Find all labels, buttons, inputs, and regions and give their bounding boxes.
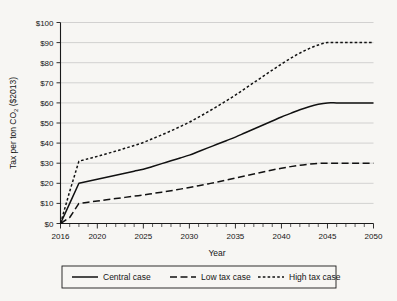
- y-tick-label-70: $70: [40, 79, 54, 88]
- y-tick-label-50: $50: [40, 119, 54, 128]
- y-axis-title-suffix: ($2013): [8, 77, 18, 109]
- x-tick-label-2050: 2050: [365, 232, 383, 241]
- legend-label-central-case: Central case: [103, 272, 151, 282]
- chart-figure: $0$10$20$30$40$50$60$70$80$90$100 201620…: [0, 0, 397, 301]
- chart-legend: Central caseLow tax caseHigh tax case: [62, 266, 341, 288]
- y-tick-label-100: $100: [36, 19, 54, 28]
- x-axis-title: Year: [208, 248, 225, 258]
- x-tick-label-2030: 2030: [180, 232, 198, 241]
- chart-background: [0, 0, 397, 301]
- x-tick-label-2045: 2045: [319, 232, 337, 241]
- x-tick-label-2040: 2040: [273, 232, 291, 241]
- y-axis-title-main: Tax per ton CO: [8, 112, 18, 170]
- legend-label-high-tax-case: High tax case: [289, 272, 341, 282]
- tax-per-ton-co2-line-chart: $0$10$20$30$40$50$60$70$80$90$100 201620…: [0, 0, 397, 301]
- x-tick-label-2016: 2016: [52, 232, 70, 241]
- y-tick-label-20: $20: [40, 179, 54, 188]
- x-tick-label-2025: 2025: [134, 232, 152, 241]
- legend-label-low-tax-case: Low tax case: [201, 272, 251, 282]
- y-tick-label-60: $60: [40, 99, 54, 108]
- x-tick-label-2020: 2020: [88, 232, 106, 241]
- y-tick-label-90: $90: [40, 39, 54, 48]
- x-tick-label-2035: 2035: [227, 232, 245, 241]
- y-axis-title: Tax per ton CO2 ($2013): [8, 77, 19, 169]
- y-tick-label-40: $40: [40, 139, 54, 148]
- y-tick-label-30: $30: [40, 159, 54, 168]
- y-tick-label-0: $0: [45, 220, 54, 229]
- y-tick-label-10: $10: [40, 199, 54, 208]
- y-tick-label-80: $80: [40, 59, 54, 68]
